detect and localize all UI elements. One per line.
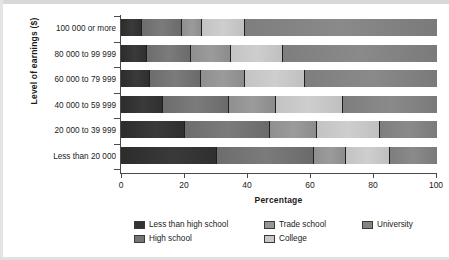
bar-segment[interactable]	[200, 70, 245, 87]
y-axis-tick-label: 60 000 to 79 999	[18, 75, 116, 84]
bar-segment[interactable]	[162, 96, 229, 113]
bar-segment[interactable]	[275, 96, 342, 113]
bar-segment[interactable]	[146, 45, 191, 62]
bar-row[interactable]	[121, 70, 436, 87]
bar-segment[interactable]	[313, 147, 346, 164]
bar-segment[interactable]	[230, 45, 283, 62]
plot-area	[121, 17, 436, 171]
x-axis-tick	[436, 173, 437, 178]
bar-segment[interactable]	[316, 121, 380, 138]
bar-segment[interactable]	[121, 96, 162, 113]
legend-item[interactable]: Trade school	[264, 220, 326, 229]
legend-item[interactable]: College	[264, 234, 307, 243]
bar-segment[interactable]	[345, 147, 390, 164]
bar-segment[interactable]	[121, 45, 146, 62]
legend-label: University	[377, 220, 413, 229]
x-axis-tick-label: 100	[421, 180, 449, 190]
x-axis-tick	[184, 173, 185, 178]
stacked-bar-chart: Level of earnings ($) 100 000 or more80 …	[0, 0, 449, 260]
bar-segment[interactable]	[304, 70, 437, 87]
y-axis-tick-label: 20 000 to 39 999	[18, 126, 116, 135]
y-axis-tick	[114, 16, 120, 17]
bar-segment[interactable]	[201, 19, 245, 36]
legend-label: High school	[149, 234, 192, 243]
x-axis-tick-label: 40	[232, 180, 262, 190]
bar-segment[interactable]	[149, 70, 200, 87]
x-axis-tick	[373, 173, 374, 178]
legend-item[interactable]: University	[362, 220, 413, 229]
bar-segment[interactable]	[269, 121, 317, 138]
bar-segment[interactable]	[389, 147, 437, 164]
bar-row[interactable]	[121, 19, 436, 36]
bar-segment[interactable]	[121, 121, 184, 138]
x-axis-tick-label: 20	[169, 180, 199, 190]
bar-segment[interactable]	[379, 121, 437, 138]
legend-swatch-icon	[134, 235, 145, 243]
bar-segment[interactable]	[121, 147, 216, 164]
y-axis-tick	[114, 93, 120, 94]
y-axis-tick	[114, 118, 120, 119]
bar-segment[interactable]	[244, 70, 305, 87]
legend-label: Less than high school	[149, 220, 228, 229]
x-axis-line	[120, 173, 437, 174]
bar-segment[interactable]	[282, 45, 437, 62]
bar-segment[interactable]	[190, 45, 230, 62]
legend-label: College	[279, 234, 307, 243]
bar-row[interactable]	[121, 147, 436, 164]
y-axis-tick-label: 40 000 to 59 999	[18, 101, 116, 110]
x-axis-tick-label: 60	[295, 180, 325, 190]
bar-row[interactable]	[121, 121, 436, 138]
legend-swatch-icon	[134, 221, 145, 229]
y-axis-tick	[114, 169, 120, 170]
y-axis-tick-label: 100 000 or more	[18, 24, 116, 33]
bar-segment[interactable]	[244, 19, 437, 36]
legend-label: Trade school	[279, 220, 326, 229]
bar-row[interactable]	[121, 96, 436, 113]
bar-segment[interactable]	[228, 96, 276, 113]
bar-segment[interactable]	[184, 121, 270, 138]
x-axis-tick-label: 0	[106, 180, 136, 190]
x-axis-tick	[310, 173, 311, 178]
bar-segment[interactable]	[216, 147, 315, 164]
bar-segment[interactable]	[141, 19, 181, 36]
legend: Less than high schoolHigh schoolTrade sc…	[134, 220, 434, 248]
bar-segment[interactable]	[342, 96, 438, 113]
legend-swatch-icon	[264, 235, 275, 243]
legend-item[interactable]: Less than high school	[134, 220, 228, 229]
bar-segment[interactable]	[181, 19, 202, 36]
bar-segment[interactable]	[121, 70, 149, 87]
legend-swatch-icon	[362, 221, 373, 229]
y-axis-tick-label: 80 000 to 99 999	[18, 50, 116, 59]
x-axis-tick	[121, 173, 122, 178]
legend-swatch-icon	[264, 221, 275, 229]
bar-row[interactable]	[121, 45, 436, 62]
bar-segment[interactable]	[121, 19, 141, 36]
y-axis-tick-label: Less than 20 000	[18, 152, 116, 161]
y-axis-tick	[114, 144, 120, 145]
y-axis-category-labels: 100 000 or more80 000 to 99 99960 000 to…	[18, 18, 116, 170]
x-axis-title: Percentage	[121, 195, 436, 205]
y-axis-tick	[114, 42, 120, 43]
y-axis-tick	[114, 67, 120, 68]
x-axis-tick	[247, 173, 248, 178]
legend-item[interactable]: High school	[134, 234, 192, 243]
x-axis-tick-label: 80	[358, 180, 388, 190]
